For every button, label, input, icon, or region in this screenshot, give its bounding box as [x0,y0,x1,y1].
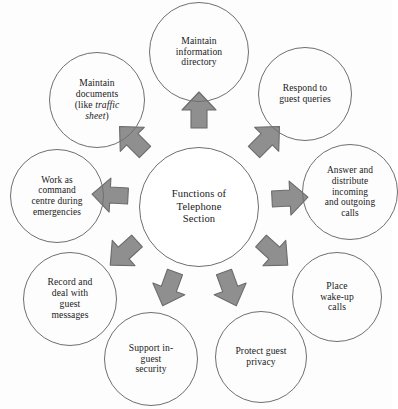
node-label-record-and-deal-with-guest-messages: Record and deal with guest messages [44,277,97,321]
node-label-work-as-command-centre: Work as command centre during emergencie… [27,175,86,218]
node-place-wake-up-calls: Place wake-up calls [292,252,382,342]
arrow-down-right-lower [208,266,252,311]
node-label-maintain-documents-part3: ) [105,110,108,121]
node-maintain-documents: Maintain documents (like traffic sheet) [49,52,145,148]
node-work-as-command-centre: Work as command centre during emergencie… [10,149,104,243]
node-record-and-deal-with-guest-messages: Record and deal with guest messages [23,252,117,346]
hub-node-functions-of-telephone-section: Functions of Telephone Section [139,147,259,267]
arrow-down-left-lower [147,266,191,311]
node-support-in-guest-security: Support in- guest security [104,312,198,406]
node-label-answer-and-distribute-calls: Answer and distribute incoming and outgo… [321,165,379,219]
node-respond-to-guest-queries: Respond to guest queries [258,47,352,141]
node-protect-guest-privacy: Protect guest privacy [215,311,307,403]
node-label-protect-guest-privacy: Protect guest privacy [231,346,290,368]
hub-node-label: Functions of Telephone Section [172,188,226,226]
node-label-respond-to-guest-queries: Respond to guest queries [275,83,335,105]
node-label-maintain-information-directory: Maintain information directory [172,36,226,69]
node-maintain-information-directory: Maintain information directory [149,2,249,102]
arrow-down-right [250,228,300,277]
node-label-place-wake-up-calls: Place wake-up calls [316,281,358,314]
node-answer-and-distribute-calls: Answer and distribute incoming and outgo… [302,144,398,240]
node-label-maintain-documents: Maintain documents (like traffic sheet) [71,78,124,122]
node-label-support-in-guest-security: Support in- guest security [125,343,178,376]
